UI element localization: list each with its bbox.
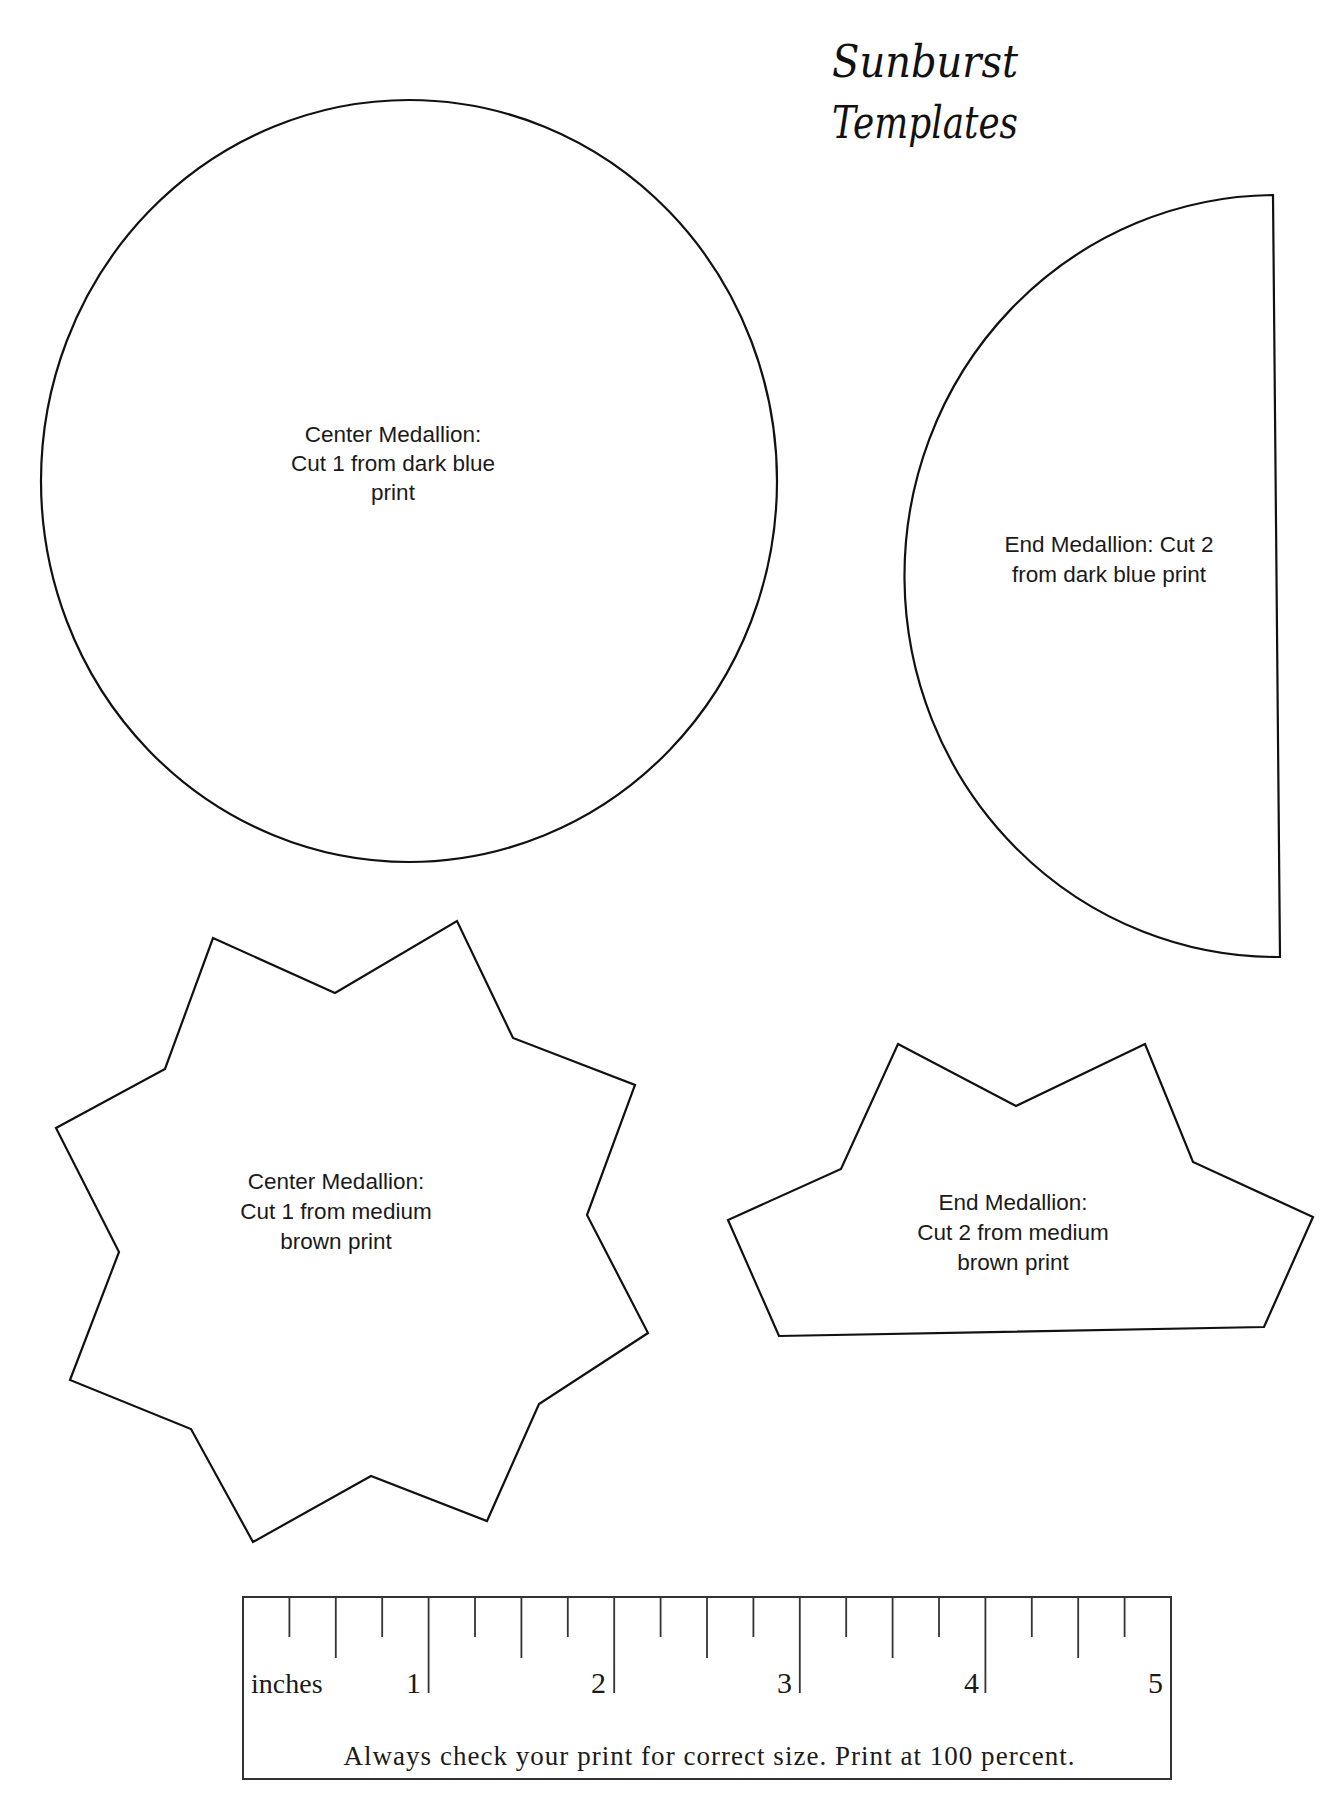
end-medallion-half-star-template: End Medallion: Cut 2 from medium brown p… [728,1044,1313,1336]
ruler-number-3: 3 [777,1666,792,1699]
page-title: Sunburst Templates [832,36,1018,148]
half-circle-label-line-1: End Medallion: Cut 2 [1005,532,1214,557]
center-medallion-star-template: Center Medallion: Cut 1 from medium brow… [56,921,648,1542]
ruler-number-1: 1 [406,1666,421,1699]
title-line-2: Templates [832,97,1018,148]
ruler-number-2: 2 [591,1666,606,1699]
template-page: Sunburst Templates Center Medallion: Cut… [0,0,1344,1816]
end-medallion-half-circle-template: End Medallion: Cut 2 from dark blue prin… [904,195,1280,957]
star-label-line-3: brown print [280,1229,392,1254]
center-medallion-circle-template: Center Medallion: Cut 1 from dark blue p… [41,100,777,862]
circle-label-line-1: Center Medallion: [305,422,481,447]
ruler-print-note: Always check your print for correct size… [344,1741,1075,1771]
half-star-label-line-1: End Medallion: [939,1190,1088,1215]
ruler-unit-label: inches [251,1668,323,1699]
measurement-ruler: inches 1 2 3 4 5 Always check your print… [243,1597,1171,1779]
half-circle-label-line-2: from dark blue print [1012,562,1207,587]
template-sheet: Sunburst Templates Center Medallion: Cut… [0,0,1344,1816]
ruler-number-4: 4 [964,1666,979,1699]
circle-label-line-2: Cut 1 from dark blue [291,451,495,476]
title-line-1: Sunburst [832,36,1018,87]
circle-label-line-3: print [371,480,416,505]
star-label-line-2: Cut 1 from medium [240,1199,431,1224]
half-star-label-line-3: brown print [957,1250,1069,1275]
star-label-line-1: Center Medallion: [248,1169,424,1194]
ruler-number-5: 5 [1148,1666,1163,1699]
half-star-label-line-2: Cut 2 from medium [917,1220,1108,1245]
